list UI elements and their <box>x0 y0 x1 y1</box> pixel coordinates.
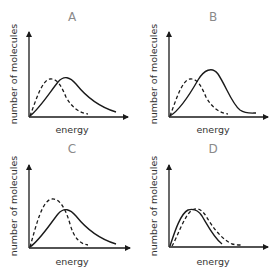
panel-b-x-label: energy <box>196 124 229 135</box>
panel-a-dashed-curve <box>30 79 88 116</box>
panel-d: D energy number of molecules <box>148 142 268 267</box>
panel-c-y-label: number of molecules <box>8 156 19 257</box>
panel-c-solid-curve <box>30 210 116 247</box>
panel-b-solid-curve <box>170 70 256 116</box>
panel-b: B energy number of molecules <box>148 10 268 135</box>
panel-a-y-label: number of molecules <box>8 24 19 125</box>
panel-a-solid-curve <box>30 78 116 116</box>
panel-d-letter: D <box>208 142 217 156</box>
panel-c-dashed-curve <box>30 199 88 247</box>
panel-d-y-label: number of molecules <box>148 156 159 257</box>
panel-c-letter: C <box>68 142 76 156</box>
panel-c: C energy number of molecules <box>8 142 130 267</box>
panel-b-y-label: number of molecules <box>148 24 159 125</box>
panel-a-x-label: energy <box>55 124 88 135</box>
panel-b-dashed-curve <box>170 79 228 116</box>
panel-b-letter: B <box>209 10 217 24</box>
panel-a: A energy number of molecules <box>8 10 128 135</box>
panel-a-letter: A <box>68 10 77 24</box>
energy-distribution-figure: A energy number of molecules B energy nu… <box>0 0 278 274</box>
panel-d-x-label: energy <box>196 256 229 267</box>
panel-c-x-label: energy <box>55 256 88 267</box>
